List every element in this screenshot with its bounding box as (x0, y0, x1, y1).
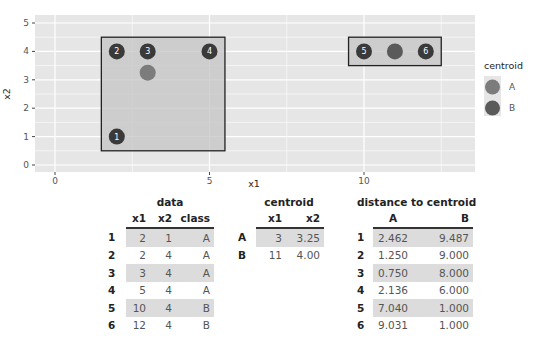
column-header-x2: x2 (146, 212, 172, 228)
centroid-table-title: centroid (238, 196, 324, 208)
table-row: B114.00 (238, 247, 324, 265)
row-name: 4 (357, 282, 373, 300)
table-row: 42.1366.000 (357, 282, 473, 300)
cell-b: 9.000 (413, 247, 473, 265)
table-row: 6124B (108, 317, 214, 335)
data-point: 6 (418, 43, 434, 59)
point-label: 6 (423, 47, 428, 56)
x-tick-label: 10 (358, 176, 370, 186)
cell-a: 1.250 (373, 247, 413, 265)
cell-x2: 3.25 (282, 228, 324, 247)
table-row: 30.7508.000 (357, 264, 473, 282)
cell-class: B (172, 299, 214, 317)
point-label: 2 (114, 47, 119, 56)
table-row: 12.4629.487 (357, 228, 473, 247)
centroid-b-icon (387, 43, 403, 59)
cell-a: 2.136 (373, 282, 413, 300)
column-header-a: A (373, 212, 413, 228)
y-tick-label: 5 (23, 18, 29, 28)
cell-a: 2.462 (373, 228, 413, 247)
distance-table-title: distance to centroid (357, 196, 476, 208)
cell-class: B (172, 317, 214, 335)
legend-key-a-icon (485, 80, 500, 95)
cell-b: 9.487 (413, 228, 473, 247)
row-name: 2 (357, 247, 373, 265)
cell-b: 8.000 (413, 264, 473, 282)
table-row: 334A (108, 264, 214, 282)
cell-x2: 1 (146, 228, 172, 247)
row-header-spacer (238, 212, 256, 228)
point-label: 3 (145, 47, 150, 56)
row-name: 5 (108, 299, 126, 317)
y-tick-label: 3 (23, 75, 29, 85)
row-name: 2 (108, 247, 126, 265)
y-tick-label: 1 (23, 132, 29, 142)
distance-table: distance to centroid A B 12.4629.48721.2… (357, 196, 476, 334)
legend-label-a: A (509, 82, 516, 92)
table-row: 224A (108, 247, 214, 265)
x-axis-title: x1 (248, 178, 260, 189)
legend-key-b-icon (485, 101, 500, 116)
y-axis-title: x2 (1, 88, 12, 100)
x-tick-label: 5 (207, 176, 213, 186)
table-row: 121A (108, 228, 214, 247)
row-name: 6 (108, 317, 126, 335)
y-axis: 012345 (23, 18, 35, 170)
row-name: 1 (108, 228, 126, 247)
cell-class: A (172, 228, 214, 247)
data-point: 1 (109, 129, 125, 145)
point-label: 4 (207, 47, 212, 56)
row-name: 3 (357, 264, 373, 282)
cell-a: 9.031 (373, 317, 413, 335)
cell-x1: 2 (126, 247, 146, 265)
row-name: 5 (357, 299, 373, 317)
table-row: 21.2509.000 (357, 247, 473, 265)
centroid-table: centroid x1 x2 A33.25B114.00 (238, 196, 324, 264)
cell-x1: 11 (256, 247, 282, 265)
cell-b: 1.000 (413, 317, 473, 335)
cell-x2: 4 (146, 299, 172, 317)
row-name: 3 (108, 264, 126, 282)
scatter-plot: 123456 012345 0510 x1 x2 centroid A B (0, 0, 534, 195)
table-row: 454A (108, 282, 214, 300)
row-name: 1 (357, 228, 373, 247)
column-header-class: class (172, 212, 214, 228)
table-row: 57.0401.000 (357, 299, 473, 317)
cell-b: 1.000 (413, 299, 473, 317)
data-point: 4 (202, 43, 218, 59)
row-name: A (238, 228, 256, 247)
cell-x2: 4 (146, 282, 172, 300)
y-tick-label: 0 (23, 160, 29, 170)
data-table: data x1 x2 class 121A224A334A454A5104B61… (108, 196, 214, 334)
cell-b: 6.000 (413, 282, 473, 300)
row-name: 6 (357, 317, 373, 335)
legend: centroid A B (484, 60, 523, 116)
cell-a: 0.750 (373, 264, 413, 282)
cell-x1: 10 (126, 299, 146, 317)
row-header-spacer (357, 212, 373, 228)
point-label: 1 (114, 133, 119, 142)
cell-x2: 4.00 (282, 247, 324, 265)
legend-label-b: B (509, 103, 515, 113)
cell-x1: 5 (126, 282, 146, 300)
cell-x2: 4 (146, 264, 172, 282)
cell-class: A (172, 247, 214, 265)
centroid-a-icon (140, 65, 156, 81)
data-point: 5 (356, 43, 372, 59)
cell-x1: 3 (126, 264, 146, 282)
cell-a: 7.040 (373, 299, 413, 317)
cell-x1: 3 (256, 228, 282, 247)
row-header-spacer (108, 212, 126, 228)
column-header-x1: x1 (126, 212, 146, 228)
cell-class: A (172, 282, 214, 300)
point-label: 5 (361, 47, 366, 56)
data-table-title: data (108, 196, 214, 208)
cell-x1: 2 (126, 228, 146, 247)
y-tick-label: 4 (23, 46, 29, 56)
y-tick-label: 2 (23, 103, 29, 113)
table-row: A33.25 (238, 228, 324, 247)
cell-x1: 12 (126, 317, 146, 335)
column-header-x1: x1 (256, 212, 282, 228)
row-name: B (238, 247, 256, 265)
data-point: 3 (140, 43, 156, 59)
